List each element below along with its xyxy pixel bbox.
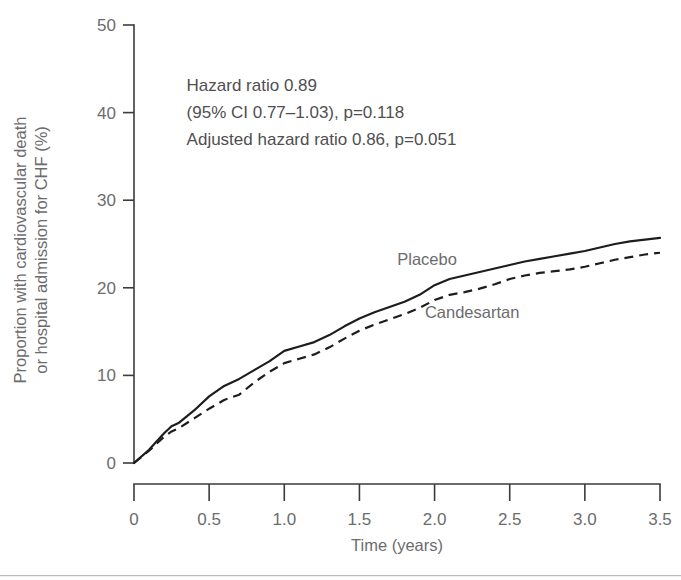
- y-tick-label-3: 30: [97, 191, 116, 210]
- y-axis-title: Proportion with cardiovascular death or …: [11, 117, 50, 384]
- x-tick-label-2: 1.0: [272, 510, 296, 529]
- data-curves: [134, 238, 660, 463]
- series-label-placebo: Placebo: [397, 250, 457, 268]
- y-tick-label-4: 40: [97, 104, 116, 123]
- survival-curve-figure: 01020304050 00.51.01.52.02.53.03.5 Place…: [0, 0, 681, 580]
- y-axis-title-line2: or hospital admission for CHF (%): [32, 126, 50, 374]
- y-tick-label-1: 10: [97, 366, 116, 385]
- y-axis-ticks: [123, 25, 134, 463]
- curve-candesartan: [134, 253, 660, 463]
- x-tick-label-6: 3.0: [573, 510, 597, 529]
- y-axis-title-line1: Proportion with cardiovascular death: [11, 117, 29, 384]
- y-axis-tick-labels: 01020304050: [97, 16, 116, 473]
- x-tick-label-4: 2.0: [423, 510, 447, 529]
- statistics-annotation: Hazard ratio 0.89(95% CI 0.77–1.03), p=0…: [187, 76, 457, 149]
- page-edge-artifact: [0, 575, 681, 576]
- x-tick-label-3: 1.5: [348, 510, 372, 529]
- x-axis-tick-labels: 00.51.01.52.02.53.03.5: [129, 510, 672, 529]
- x-tick-label-5: 2.5: [498, 510, 522, 529]
- series-label-candesartan: Candesartan: [425, 303, 519, 321]
- annotation-adjusted-hazard-ratio: Adjusted hazard ratio 0.86, p=0.051: [187, 130, 457, 149]
- x-tick-label-1: 0.5: [197, 510, 221, 529]
- chart-svg: 01020304050 00.51.01.52.02.53.03.5 Place…: [0, 0, 681, 580]
- annotation-confidence-interval: (95% CI 0.77–1.03), p=0.118: [187, 103, 405, 122]
- curve-placebo: [134, 238, 660, 463]
- annotation-hazard-ratio: Hazard ratio 0.89: [187, 76, 317, 95]
- y-tick-label-0: 0: [107, 454, 116, 473]
- x-tick-label-7: 3.5: [648, 510, 672, 529]
- x-tick-label-0: 0: [129, 510, 138, 529]
- x-axis-ticks: [134, 484, 660, 501]
- y-tick-label-2: 20: [97, 279, 116, 298]
- y-tick-label-5: 50: [97, 16, 116, 35]
- x-axis-title: Time (years): [351, 536, 443, 554]
